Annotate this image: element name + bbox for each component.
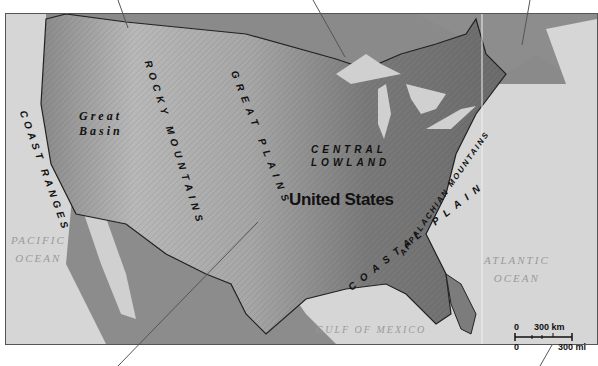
- scale-km-zero: 0: [514, 322, 519, 332]
- leader-lines: [0, 0, 598, 366]
- scale-km-label: 300 km: [534, 322, 565, 332]
- scale-bar: 0 300 km 0 300 mi: [510, 322, 594, 364]
- scale-mi-label: 300 mi: [558, 342, 586, 352]
- scale-mi-zero: 0: [514, 342, 519, 352]
- scale-ruler: [514, 333, 574, 341]
